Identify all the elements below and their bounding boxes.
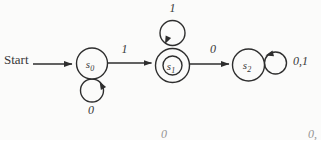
start-label: Start [4, 52, 29, 67]
page-fragment-bottom-right: 0, [308, 127, 317, 141]
s1-self-loop [160, 21, 185, 46]
s2-self-loop-label: 0,1 [293, 54, 308, 68]
automaton-diagram: Start 0 1 0,1 1 0 s0 s1 s2 0 0, [0, 0, 321, 140]
transition-label-s0-s1: 1 [122, 42, 128, 56]
transition-label-s1-s2: 0 [210, 42, 216, 56]
state-machine-svg: Start 0 1 0,1 1 0 s0 s1 s2 0 0, [0, 0, 321, 140]
s1-self-loop-label: 1 [170, 1, 176, 15]
page-fragment-bottom-center: 0 [161, 127, 167, 141]
s0-self-loop-label: 0 [88, 103, 94, 117]
